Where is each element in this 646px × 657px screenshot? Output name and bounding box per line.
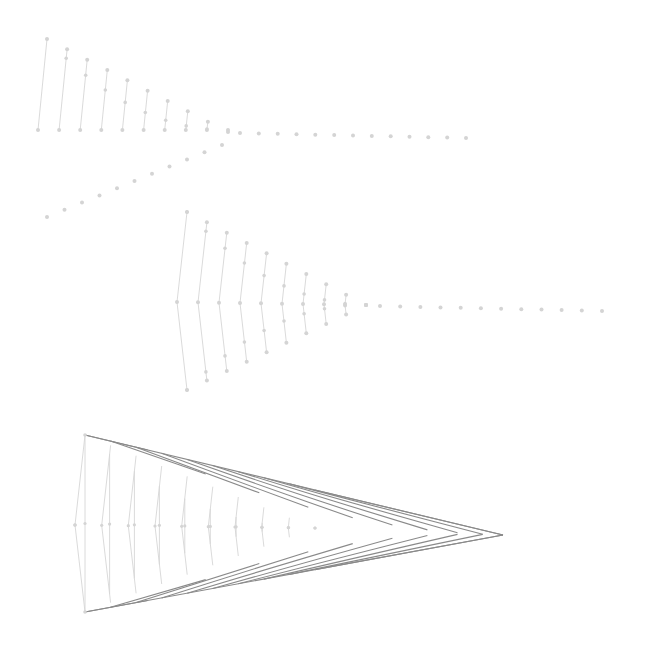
arm-point	[225, 369, 229, 373]
arm-point	[186, 109, 190, 113]
stage-3-outer-strings	[85, 435, 503, 612]
extension-point	[560, 308, 564, 312]
outer-string	[136, 447, 259, 493]
arm-point	[196, 300, 200, 304]
string-line	[240, 303, 247, 362]
extension-point	[439, 305, 443, 309]
extension-point	[499, 307, 503, 311]
string-art-diagram	[0, 0, 646, 657]
extension-point	[378, 304, 382, 308]
arm-point	[83, 610, 87, 614]
arm-point	[301, 302, 305, 306]
extension-point	[238, 131, 242, 135]
extension-point	[185, 157, 189, 161]
string-line	[303, 304, 306, 333]
arm-point	[153, 524, 156, 527]
string-line	[177, 212, 187, 302]
arm-point	[166, 99, 170, 103]
string-line	[144, 91, 148, 130]
string-line	[38, 39, 47, 130]
extension-point	[351, 134, 355, 138]
curve-point	[302, 312, 306, 316]
curve-point	[243, 340, 247, 344]
arm-point	[205, 379, 209, 383]
outer-string	[187, 459, 353, 517]
stage-1-dotted-extensions	[45, 131, 468, 219]
string-line	[101, 70, 107, 130]
stage-2-dotted-extension	[378, 304, 604, 313]
extension-point	[600, 309, 604, 313]
chevron-point	[108, 523, 111, 526]
arm-point	[120, 128, 124, 132]
arm-point	[146, 89, 150, 93]
extension-point	[98, 193, 102, 197]
extension-point	[389, 134, 393, 138]
arm-point	[238, 301, 242, 305]
stage-1-two-arm-envelope	[36, 37, 230, 134]
extension-point	[459, 306, 463, 310]
extension-point	[168, 165, 172, 169]
arm-point	[175, 300, 179, 304]
arm-point	[265, 251, 269, 255]
arm-point	[304, 331, 308, 335]
outer-string	[213, 538, 393, 588]
outer-string	[289, 484, 482, 534]
string-line	[198, 302, 207, 380]
curve-point	[282, 319, 286, 323]
arm-point	[322, 302, 326, 306]
arm-point	[207, 525, 210, 528]
arm-point	[184, 128, 188, 132]
extension-point	[418, 305, 422, 309]
curve-point	[223, 354, 227, 358]
string-line	[75, 525, 85, 612]
extension-point	[464, 136, 468, 140]
curve-point	[262, 274, 266, 278]
outer-string	[187, 544, 353, 594]
string-line	[282, 304, 286, 343]
extension-point	[408, 135, 412, 139]
string-line	[128, 456, 136, 526]
arm-point	[287, 526, 290, 529]
arm-point	[206, 120, 210, 124]
arm-point	[225, 231, 229, 235]
curve-point	[204, 229, 208, 233]
extension-point	[398, 305, 402, 309]
outer-string	[238, 472, 427, 530]
curve-point	[282, 284, 286, 288]
arm-point	[364, 303, 368, 307]
outer-string	[111, 580, 206, 608]
extension-point	[519, 307, 523, 311]
arm-point	[233, 525, 236, 528]
string-line	[219, 233, 227, 303]
string-line	[155, 526, 162, 584]
extension-point	[540, 308, 544, 312]
curve-point	[204, 370, 208, 374]
string-line	[261, 303, 267, 352]
arm-point	[260, 526, 263, 529]
arm-point	[205, 220, 209, 224]
extension-point	[203, 150, 207, 154]
arm-point	[226, 128, 230, 132]
string-line	[165, 101, 168, 130]
arm-point	[265, 350, 269, 354]
extension-point	[332, 133, 336, 137]
extension-point	[580, 309, 584, 313]
arm-point	[217, 301, 221, 305]
arm-point	[344, 312, 348, 316]
string-line	[177, 302, 187, 390]
arm-point	[280, 302, 284, 306]
arm-point	[105, 68, 109, 72]
arm-point	[284, 262, 288, 266]
string-line	[282, 264, 286, 304]
extension-point	[220, 143, 224, 147]
string-line	[219, 303, 227, 371]
arm-point	[65, 47, 69, 51]
outer-string	[85, 535, 503, 612]
arm-point	[343, 303, 347, 307]
arm-point	[57, 128, 61, 132]
curve-point	[302, 292, 306, 296]
string-line	[240, 243, 247, 303]
curve-point	[164, 119, 168, 123]
string-line	[261, 253, 267, 303]
string-line	[235, 527, 238, 556]
